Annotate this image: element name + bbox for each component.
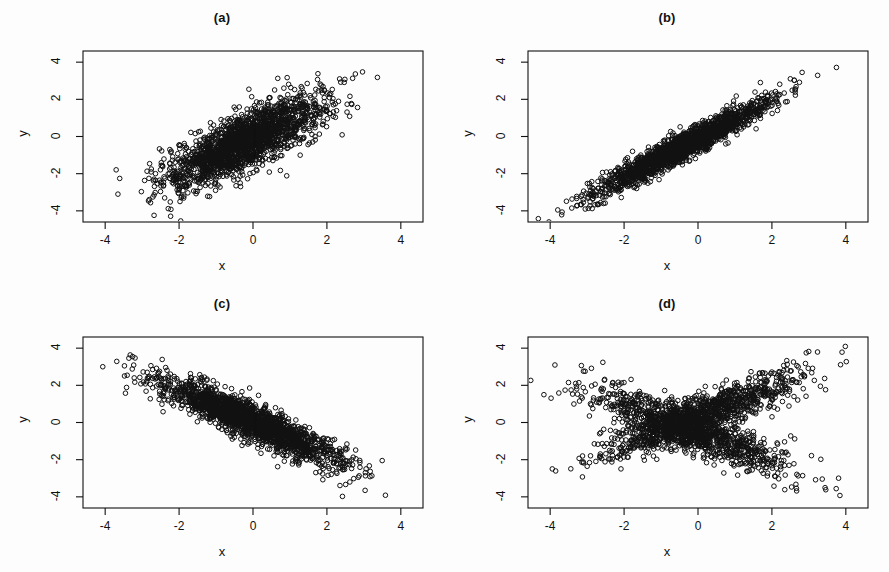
panel-c-xtick-2: 0 xyxy=(233,519,273,533)
panel-b-xtick-2: 0 xyxy=(678,233,718,247)
panel-d-xtick-0: -4 xyxy=(530,519,570,533)
panel-d-xtick-3: 2 xyxy=(752,519,792,533)
panel-d-ytick-3: 2 xyxy=(494,364,508,404)
panel-a-ytick-1: -2 xyxy=(49,153,63,193)
panel-d-plot-area xyxy=(445,286,889,572)
panel-a-yaxis-label: y xyxy=(15,104,30,164)
panel-b-xtick-4: 4 xyxy=(826,233,866,247)
panel-b-ytick-2: 0 xyxy=(494,116,508,156)
panel-b-xtick-0: -4 xyxy=(530,233,570,247)
panel-a-xaxis-label: x xyxy=(0,258,444,273)
panel-a-ytick-0: -4 xyxy=(49,190,63,230)
panel-c-xtick-0: -4 xyxy=(85,519,125,533)
panel-c-xaxis-label: x xyxy=(0,544,444,559)
panel-c-ytick-4: 4 xyxy=(49,327,63,367)
panel-b: (b) x y -4-2024-4-2024 xyxy=(445,0,889,286)
panel-b-ytick-4: 4 xyxy=(494,41,508,81)
panel-b-ytick-1: -2 xyxy=(494,153,508,193)
panel-c: (c) x y -4-2024-4-2024 xyxy=(0,286,444,572)
panel-b-svg xyxy=(445,0,889,286)
panel-a-xtick-0: -4 xyxy=(85,233,125,247)
panel-a: (a) x y -4-2024-4-2024 xyxy=(0,0,444,286)
panel-b-plot-area xyxy=(445,0,889,286)
panel-d-xtick-4: 4 xyxy=(826,519,866,533)
panel-a-xtick-3: 2 xyxy=(307,233,347,247)
panel-b-xtick-3: 2 xyxy=(752,233,792,247)
panel-b-xaxis-label: x xyxy=(445,258,889,273)
panel-d-xtick-2: 0 xyxy=(678,519,718,533)
panel-c-xtick-4: 4 xyxy=(381,519,421,533)
panel-d-svg xyxy=(445,286,889,572)
panel-d-points xyxy=(528,344,848,498)
panel-d-yaxis-label: y xyxy=(460,390,475,450)
panel-d-ytick-1: -2 xyxy=(494,439,508,479)
panel-c-ytick-1: -2 xyxy=(49,439,63,479)
panel-b-points xyxy=(536,65,839,224)
panel-c-points xyxy=(100,353,387,499)
panel-c-ytick-0: -4 xyxy=(49,476,63,516)
panel-d-xtick-1: -2 xyxy=(604,519,644,533)
panel-b-yaxis-label: y xyxy=(460,104,475,164)
panel-a-ytick-4: 4 xyxy=(49,41,63,81)
panel-a-ytick-3: 2 xyxy=(49,78,63,118)
panel-d: (d) x y -4-2024-4-2024 xyxy=(445,286,889,572)
panel-a-plot-area xyxy=(0,0,444,286)
panel-b-xtick-1: -2 xyxy=(604,233,644,247)
panel-d-ytick-2: 0 xyxy=(494,402,508,442)
panel-b-ytick-0: -4 xyxy=(494,190,508,230)
panel-c-plot-area xyxy=(0,286,444,572)
panel-b-ytick-3: 2 xyxy=(494,78,508,118)
panel-a-xtick-2: 0 xyxy=(233,233,273,247)
panel-a-xtick-4: 4 xyxy=(381,233,421,247)
panel-d-ytick-4: 4 xyxy=(494,327,508,367)
panel-c-xtick-3: 2 xyxy=(307,519,347,533)
figure-scatterplot-grid: (a) x y -4-2024-4-2024 (b) x y -4-2024-4… xyxy=(0,0,889,572)
panel-a-xtick-1: -2 xyxy=(159,233,199,247)
panel-c-xtick-1: -2 xyxy=(159,519,199,533)
panel-c-svg xyxy=(0,286,444,572)
panel-c-ytick-2: 0 xyxy=(49,402,63,442)
panel-a-svg xyxy=(0,0,444,286)
panel-a-ytick-2: 0 xyxy=(49,116,63,156)
panel-d-ytick-0: -4 xyxy=(494,476,508,516)
panel-d-xaxis-label: x xyxy=(445,544,889,559)
panel-c-ytick-3: 2 xyxy=(49,364,63,404)
panel-a-points xyxy=(114,70,380,224)
panel-c-yaxis-label: y xyxy=(15,390,30,450)
